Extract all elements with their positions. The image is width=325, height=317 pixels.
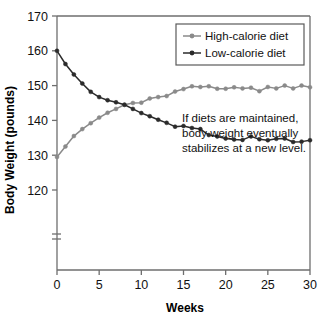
- data-point: [182, 87, 186, 91]
- data-point: [249, 86, 253, 90]
- data-point: [156, 118, 160, 122]
- x-tick-label: 5: [96, 278, 103, 292]
- data-point: [283, 84, 287, 88]
- data-point: [122, 103, 126, 107]
- y-tick-label: 160: [27, 44, 48, 58]
- data-point: [215, 87, 219, 91]
- x-tick-label: 10: [134, 278, 148, 292]
- data-point: [72, 134, 76, 138]
- data-point: [291, 86, 295, 90]
- data-point: [97, 116, 101, 120]
- data-point: [266, 85, 270, 89]
- x-tick-label: 20: [219, 278, 233, 292]
- data-point: [106, 111, 110, 115]
- chart-legend: High-calorie dietLow-calorie diet: [176, 24, 304, 65]
- y-tick-label: 120: [27, 184, 48, 198]
- data-point: [173, 125, 177, 129]
- x-axis-title: Weeks: [166, 301, 204, 315]
- y-tick-label: 170: [27, 10, 48, 24]
- data-point: [232, 85, 236, 89]
- chart-canvas: 120130140150160170 051015202530 Body Wei…: [0, 0, 325, 317]
- data-point: [241, 86, 245, 90]
- x-tick-label: 15: [177, 278, 191, 292]
- data-point: [207, 84, 211, 88]
- data-point: [308, 138, 312, 142]
- y-tick-label: 130: [27, 149, 48, 163]
- data-point: [148, 96, 152, 100]
- data-point: [131, 101, 135, 105]
- data-point: [80, 82, 84, 86]
- x-tick-label: 30: [303, 278, 317, 292]
- data-point: [308, 85, 312, 89]
- data-point: [106, 98, 110, 102]
- annotation-line-2: body weight eventually: [182, 127, 299, 139]
- data-point: [63, 145, 67, 149]
- data-point: [114, 100, 118, 104]
- data-point: [257, 89, 261, 93]
- x-tick-label: 25: [261, 278, 275, 292]
- data-point: [165, 94, 169, 98]
- data-point: [114, 107, 118, 111]
- data-point: [55, 155, 59, 159]
- stabilization-note: If diets are maintained,body weight even…: [182, 112, 306, 154]
- legend-label-2: Low-calorie diet: [205, 47, 286, 59]
- data-point: [72, 72, 76, 76]
- data-point: [224, 87, 228, 91]
- body-weight-line-chart: 120130140150160170 051015202530 Body Wei…: [0, 0, 325, 317]
- data-point: [63, 62, 67, 66]
- data-point: [97, 95, 101, 99]
- data-point: [89, 90, 93, 94]
- y-tick-label: 150: [27, 79, 48, 93]
- data-point: [300, 84, 304, 88]
- data-point: [156, 95, 160, 99]
- y-tick-label: 140: [27, 114, 48, 128]
- y-axis-ticks: 120130140150160170: [27, 10, 57, 198]
- legend-marker-2: [190, 51, 195, 56]
- data-point: [274, 86, 278, 90]
- data-point: [89, 121, 93, 125]
- data-point: [190, 84, 194, 88]
- data-point: [55, 49, 59, 53]
- legend-label-1: High-calorie diet: [205, 30, 289, 42]
- annotation-line-3: stabilizes at a new level.: [182, 142, 306, 154]
- data-point: [139, 101, 143, 105]
- x-axis-ticks: 051015202530: [54, 270, 317, 292]
- x-tick-label: 0: [54, 278, 61, 292]
- data-point: [198, 85, 202, 89]
- data-point: [139, 111, 143, 115]
- data-point: [165, 121, 169, 125]
- data-point: [173, 90, 177, 94]
- annotation-line-1: If diets are maintained,: [182, 112, 298, 124]
- data-point: [80, 127, 84, 131]
- data-point: [148, 114, 152, 118]
- data-point: [131, 107, 135, 111]
- y-axis-title: Body Weight (pounds): [3, 86, 17, 214]
- legend-marker-1: [190, 34, 195, 39]
